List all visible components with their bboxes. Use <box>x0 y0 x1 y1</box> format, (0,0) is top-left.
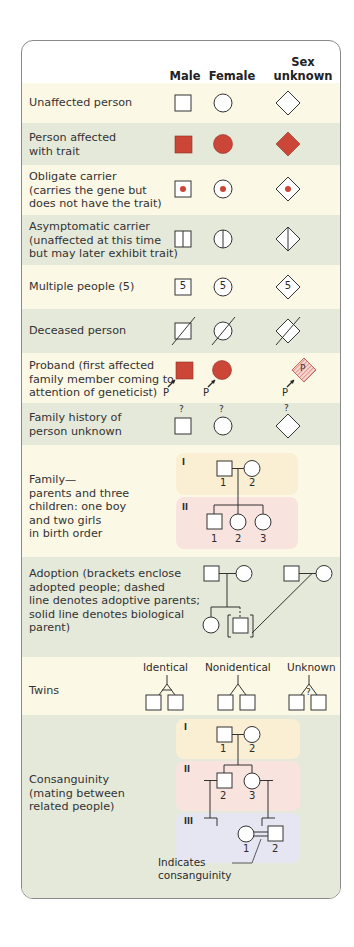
deceased-symbols <box>22 309 340 353</box>
row-adoption: Adoption (brackets enclose adopted peopl… <box>22 557 340 657</box>
twin-square-icon <box>168 695 183 710</box>
son-square-icon <box>207 514 222 529</box>
adoptive-mother-circle-icon <box>236 566 252 582</box>
obligate-carrier-symbols <box>22 165 340 215</box>
daughter-circle-icon <box>255 514 271 530</box>
person-number: 1 <box>243 843 249 854</box>
unknown-history-female-circle-icon <box>214 417 232 435</box>
person-number: 3 <box>260 533 266 544</box>
question-marker-female: ? <box>219 404 224 414</box>
twin-square-icon <box>240 695 255 710</box>
son-square-icon <box>217 773 232 788</box>
person-number: 2 <box>249 743 255 754</box>
row-consanguinity: Consanguinity (mating between related pe… <box>22 715 340 898</box>
row-proband: Proband (first affected family member co… <box>22 353 340 403</box>
cousin-female-circle-icon <box>238 826 254 842</box>
child-circle-icon <box>203 617 219 633</box>
affected-symbols <box>22 123 340 165</box>
proband-symbols <box>22 353 340 403</box>
affected-diamond-icon <box>276 132 300 156</box>
affected-female-circle-icon <box>214 135 233 154</box>
person-number: 2 <box>235 533 241 544</box>
proband-marker-male: P <box>163 387 169 398</box>
question-marker-unknown: ? <box>284 403 289 413</box>
row-family: Family— parents and three children: one … <box>22 445 340 557</box>
proband-male-square-icon <box>176 362 193 379</box>
left-bracket-icon <box>228 615 231 637</box>
unknown-history-diamond-icon <box>276 414 300 438</box>
annotation-line1: Indicates <box>158 856 232 869</box>
twins-unknown-marker: ? <box>306 687 311 697</box>
pedigree-symbols-table: Male Female Sex unknown or unspecified U… <box>21 40 341 899</box>
person-number: 2 <box>272 843 278 854</box>
consanguinity-annotation: Indicates consanguinity <box>158 856 232 882</box>
question-marker-male: ? <box>179 404 184 414</box>
adoptive-father-square-icon <box>204 566 219 581</box>
multiple-count-unknown: 5 <box>280 280 296 291</box>
column-header-female: Female <box>202 69 262 83</box>
twin-square-icon <box>311 695 326 710</box>
asymptomatic-carrier-symbols <box>22 215 340 265</box>
column-header-male: Male <box>165 69 205 83</box>
row-twins: Twins Identical Nonidentical Unknown ? <box>22 657 340 715</box>
proband-marker-inside-diamond: P <box>300 363 305 373</box>
twins-pedigree <box>22 657 340 715</box>
person-number: 1 <box>211 533 217 544</box>
unknown-diamond-icon <box>276 91 300 115</box>
person-number: 1 <box>220 743 226 754</box>
biological-mother-circle-icon <box>316 566 332 582</box>
annotation-line2: consanguinity <box>158 869 232 882</box>
row-multiple-people: Multiple people (5) 5 5 5 <box>22 265 340 309</box>
row-deceased: Deceased person <box>22 309 340 353</box>
daughter-circle-icon <box>244 773 260 789</box>
cousin-male-square-icon <box>268 826 283 841</box>
proband-female-circle-icon <box>213 361 232 380</box>
twin-square-icon <box>289 695 304 710</box>
proband-marker-female: P <box>203 387 209 398</box>
twin-square-icon <box>218 695 233 710</box>
person-number: 2 <box>249 477 255 488</box>
person-number: 2 <box>220 790 226 801</box>
right-bracket-icon <box>250 615 253 637</box>
adopted-child-square-icon <box>233 618 248 633</box>
grandfather-square-icon <box>217 727 232 742</box>
adoption-pedigree <box>22 557 340 657</box>
proband-marker-unknown: P <box>282 387 288 398</box>
row-unaffected: Unaffected person <box>22 83 340 123</box>
male-square-icon <box>175 95 191 111</box>
person-number: 1 <box>220 477 226 488</box>
grandmother-circle-icon <box>244 727 260 743</box>
twin-square-icon <box>146 695 161 710</box>
affected-male-square-icon <box>175 136 192 153</box>
unknown-history-male-square-icon <box>175 418 191 434</box>
row-asymptomatic-carrier: Asymptomatic carrier (unaffected at this… <box>22 215 340 265</box>
column-header-sex-unknown-line1: Sex unknown <box>263 55 341 83</box>
multiple-count-male: 5 <box>175 280 191 291</box>
row-family-history-unknown: Family history of person unknown ? ? ? <box>22 403 340 445</box>
female-circle-icon <box>214 94 232 112</box>
mother-circle-icon <box>244 461 260 477</box>
person-number: 3 <box>249 790 255 801</box>
multiple-count-female: 5 <box>215 280 231 291</box>
row-obligate-carrier: Obligate carrier (carries the gene but d… <box>22 165 340 215</box>
biological-father-square-icon <box>284 566 299 581</box>
unaffected-symbols <box>22 83 340 123</box>
father-square-icon <box>217 461 232 476</box>
family-pedigree <box>22 445 340 557</box>
daughter-circle-icon <box>230 514 246 530</box>
row-affected: Person affected with trait <box>22 123 340 165</box>
